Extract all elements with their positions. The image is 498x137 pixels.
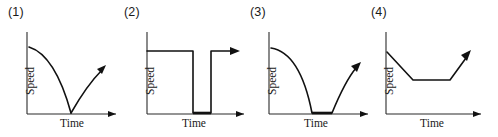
panel-1-x-axis-arrow-icon: [108, 111, 116, 117]
panel-3-x-axis-label: Time: [292, 117, 340, 129]
panel-4-x-axis-label: Time: [408, 117, 456, 129]
panel-3-y-axis-label: Speed: [266, 67, 278, 95]
panel-2-x-axis-label: Time: [170, 117, 218, 129]
panel-1-y-axis-label: Speed: [24, 67, 36, 95]
figure-root: (1) Speed Time (2): [0, 0, 498, 137]
panel-2-second-plateau: [211, 51, 232, 113]
panel-4-speed-polyline: [387, 52, 466, 80]
panel-1-rising-curve: [71, 70, 102, 113]
panel-3-x-axis-arrow-icon: [360, 111, 368, 117]
panel-2-plateau-arrow-icon: [230, 47, 240, 55]
panel-3-rising-curve: [332, 68, 356, 113]
panel-3: (3) Speed Time: [246, 0, 370, 137]
panel-4-line-arrow-icon: [461, 50, 471, 61]
panel-4: (4) Speed Time: [370, 0, 498, 137]
panel-4-y-axis-label: Speed: [383, 67, 395, 95]
panel-2-x-axis-arrow-icon: [236, 111, 244, 117]
panel-2: (2) Speed Time: [118, 0, 246, 137]
panel-1-x-axis-label: Time: [48, 117, 96, 129]
panel-1: (1) Speed Time: [0, 0, 118, 137]
panel-3-curve-arrow-icon: [351, 62, 361, 72]
panel-2-y-axis-label: Speed: [144, 67, 156, 95]
panel-4-x-axis-arrow-icon: [473, 111, 481, 117]
